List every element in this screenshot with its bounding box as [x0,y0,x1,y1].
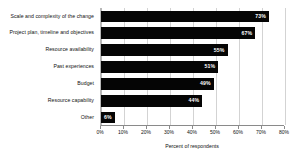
tick-label: 50% [210,130,220,135]
bar: 49% [101,78,214,90]
bar: 6% [101,112,115,124]
tick-label: 30% [164,130,174,135]
category-label: Project plan, timeline and objectives [0,30,97,35]
bar-series: 73%67%55%51%49%44%6% [101,8,284,125]
bar-row: 55% [101,44,284,56]
bar-chart: Scale and complexity of the changeProjec… [0,0,301,159]
category-label: Scale and complexity of the change [0,14,97,19]
bar-row: 6% [101,112,284,124]
category-label: Resource availability [0,47,97,52]
bar-row: 67% [101,27,284,39]
category-label: Budget [0,81,97,86]
bar-value-label: 67% [241,31,255,36]
category-label: Other [0,115,97,120]
bar-row: 49% [101,78,284,90]
bar: 55% [101,44,228,56]
tick-label: 80% [279,130,289,135]
bar-value-label: 44% [189,98,203,103]
gridline [285,8,286,125]
category-axis-labels: Scale and complexity of the changeProjec… [0,8,97,126]
tick-label: 40% [187,130,197,135]
tick-label: 20% [141,130,151,135]
tick-label: 70% [256,130,266,135]
bar-value-label: 51% [205,64,219,69]
bar: 44% [101,95,202,107]
category-label: Past experiences [0,64,97,69]
x-axis-title: Percent of respondents [100,144,284,149]
bar-value-label: 6% [104,115,115,120]
bar-value-label: 55% [214,48,228,53]
bar-value-label: 49% [200,81,214,86]
category-label: Resource capability [0,98,97,103]
bar: 73% [101,11,269,23]
tick-label: 60% [233,130,243,135]
tick-label: 10% [118,130,128,135]
bar: 51% [101,61,218,73]
bar-value-label: 73% [255,14,269,19]
bar-row: 73% [101,11,284,23]
bar: 67% [101,27,255,39]
bar-row: 51% [101,61,284,73]
x-axis-tick-labels: 0%10%20%30%40%50%60%70%80% [100,130,284,139]
tick-label: 0% [96,130,103,135]
plot-area: 73%67%55%51%49%44%6% [100,8,284,126]
bar-row: 44% [101,95,284,107]
